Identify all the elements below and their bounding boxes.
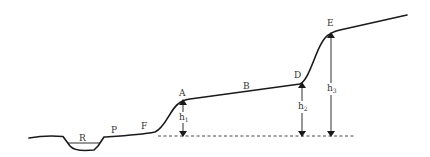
label-P: P [111,125,117,135]
terrain-profile-line [29,15,407,151]
label-F: F [141,121,147,131]
terrace-profile-diagram: R P F A B D E h1 h2 h3 [0,0,430,157]
label-R: R [79,133,86,143]
label-E: E [327,18,334,28]
label-A: A [178,88,186,98]
label-D: D [294,70,301,80]
label-B: B [243,81,250,91]
